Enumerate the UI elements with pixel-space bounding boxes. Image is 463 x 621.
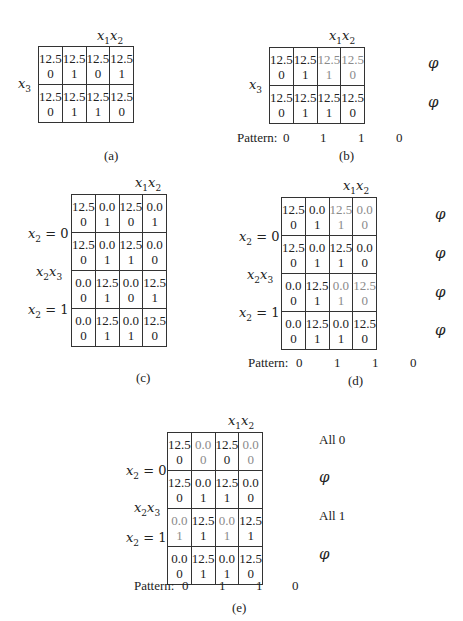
row-tag: φ: [435, 244, 446, 262]
pattern-value: 0: [410, 355, 417, 371]
pattern-value: 0: [396, 130, 403, 146]
cell-probability: 12.5: [318, 52, 341, 67]
row-label-x2-0: x2 = 0: [126, 463, 167, 481]
cell-probability: 12.5: [72, 199, 95, 214]
kmap-cell: 12.51: [329, 236, 353, 274]
cell-probability: 12.5: [192, 551, 215, 566]
kmap-cell: 0.00: [143, 233, 167, 271]
kmap-row: 0.0012.510.0112.50: [282, 274, 377, 312]
kmap-cell: 12.50: [39, 85, 63, 123]
kmap-row: 12.500.0112.510.00: [72, 233, 167, 271]
kmap-cell: 12.50: [119, 195, 143, 233]
cell-probability: 12.5: [96, 313, 119, 328]
cell-probability: 0.0: [239, 475, 262, 490]
kmap-row: 12.500.0012.500.00: [168, 433, 263, 471]
cell-bit: 0: [341, 67, 364, 82]
cell-probability: 0.0: [353, 202, 376, 217]
cell-bit: 0: [282, 217, 305, 232]
kmap-table: 12.500.0112.510.0012.500.0112.510.000.00…: [281, 197, 377, 350]
cell-bit: 1: [306, 255, 329, 270]
col-var-label: x1x2: [329, 28, 355, 46]
kmap-cell: 12.51: [215, 471, 239, 509]
cell-probability: 12.5: [353, 278, 376, 293]
cell-probability: 0.0: [143, 237, 166, 252]
kmap-cell: 12.50: [72, 233, 96, 271]
cell-probability: 12.5: [270, 52, 293, 67]
cell-bit: 0: [120, 214, 143, 229]
cell-bit: 0: [143, 328, 166, 343]
cell-bit: 1: [110, 66, 133, 81]
cell-bit: 1: [143, 290, 166, 305]
cell-probability: 0.0: [143, 199, 166, 214]
kmap-cell: 0.00: [239, 433, 263, 471]
cell-bit: 0: [216, 452, 239, 467]
cell-probability: 0.0: [306, 240, 329, 255]
kmap-cell: 12.50: [143, 309, 167, 347]
cell-probability: 12.5: [330, 240, 353, 255]
cell-probability: 12.5: [63, 51, 86, 66]
kmap-cell: 0.01: [329, 274, 353, 312]
kmap-cell: 12.50: [282, 236, 306, 274]
kmap-cell: 12.51: [317, 48, 341, 86]
kmap-cell: 12.50: [110, 85, 134, 123]
caption: (e): [232, 600, 246, 616]
kmap-cell: 0.00: [353, 198, 377, 236]
cell-probability: 12.5: [282, 202, 305, 217]
cell-bit: 1: [216, 490, 239, 505]
kmap-row: 12.500.0112.510.00: [168, 471, 263, 509]
cell-probability: 12.5: [87, 51, 110, 66]
row-label-x2x3: x2x3: [247, 267, 273, 285]
cell-bit: 1: [168, 528, 191, 543]
kmap-cell: 12.51: [143, 271, 167, 309]
cell-probability: 0.0: [96, 237, 119, 252]
row-var-label: x3: [249, 77, 262, 95]
pattern-value: 1: [372, 355, 379, 371]
row-label-x2-1: x2 = 1: [126, 530, 167, 548]
kmap-row: 0.0012.510.0112.50: [72, 309, 167, 347]
kmap-cell: 12.50: [270, 48, 294, 86]
pattern-label: Pattern:: [248, 355, 288, 371]
row-label-x2-0: x2 = 0: [239, 229, 280, 247]
cell-probability: 0.0: [282, 316, 305, 331]
cell-probability: 12.5: [330, 202, 353, 217]
cell-probability: 12.5: [192, 513, 215, 528]
cell-probability: 12.5: [294, 90, 317, 105]
kmap-row: 12.500.0112.500.01: [72, 195, 167, 233]
cell-probability: 12.5: [306, 316, 329, 331]
cell-bit: 1: [192, 528, 215, 543]
row-tag: φ: [435, 205, 446, 223]
pattern-value: 0: [182, 578, 189, 594]
cell-bit: 0: [282, 293, 305, 308]
pattern-value: 1: [358, 130, 365, 146]
kmap-cell: 12.50: [86, 47, 110, 85]
kmap-row: 0.0012.510.0112.50: [282, 312, 377, 350]
cell-probability: 12.5: [318, 90, 341, 105]
kmap-cell: 0.01: [143, 195, 167, 233]
kmap-cell: 12.50: [168, 433, 192, 471]
kmap-cell: 0.01: [95, 233, 119, 271]
cell-bit: 0: [270, 105, 293, 120]
cell-probability: 12.5: [353, 316, 376, 331]
kmap-cell: 12.51: [62, 47, 86, 85]
cell-probability: 12.5: [341, 90, 364, 105]
cell-probability: 0.0: [306, 202, 329, 217]
cell-probability: 12.5: [39, 89, 62, 104]
kmap-cell: 0.01: [168, 509, 192, 547]
kmap-row: 0.0112.510.0112.51: [168, 509, 263, 547]
cell-probability: 12.5: [87, 89, 110, 104]
cell-probability: 12.5: [341, 52, 364, 67]
row-tag: φ: [435, 321, 446, 339]
cell-bit: 0: [120, 290, 143, 305]
cell-bit: 0: [239, 452, 262, 467]
pattern-label: Pattern:: [237, 130, 277, 146]
caption: (d): [348, 373, 363, 389]
cell-probability: 12.5: [168, 475, 191, 490]
pattern-value: 0: [296, 355, 303, 371]
kmap-cell: 12.51: [329, 198, 353, 236]
kmap-row: 12.5012.5112.5012.51: [39, 47, 134, 85]
cell-probability: 12.5: [294, 52, 317, 67]
cell-probability: 12.5: [143, 313, 166, 328]
cell-bit: 0: [87, 66, 110, 81]
pattern-value: 1: [320, 130, 327, 146]
kmap-cell: 12.51: [293, 48, 317, 86]
